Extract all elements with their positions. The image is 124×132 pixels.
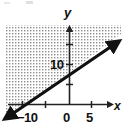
- x-tick-label-0: 0: [63, 110, 70, 125]
- x-tick-label-5: 5: [86, 110, 93, 125]
- scan-artifact-1: [4, 2, 10, 4]
- scan-artifact-2: [26, 1, 33, 4]
- x-axis-label: x: [114, 100, 121, 112]
- y-axis-label: y: [64, 6, 71, 19]
- y-tick-label-10: 10: [50, 57, 63, 72]
- x-tick-label-neg10: −10: [17, 110, 38, 125]
- graph-figure: y x 10 −10 0 5: [0, 0, 124, 132]
